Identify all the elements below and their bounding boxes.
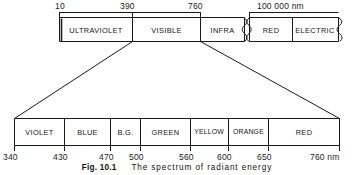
band-red-top: RED <box>251 26 291 35</box>
bottom-tick-label-430: 430 <box>53 152 68 162</box>
top-tick-label-760: 760 <box>188 1 203 11</box>
bottom-tick-label-340: 340 <box>3 152 18 162</box>
bottom-tick-label-470: 470 <box>99 152 114 162</box>
band-electric: ELECTRIC <box>293 26 337 35</box>
break-wave-electric-end <box>337 18 342 42</box>
expansion-line-right <box>201 42 340 119</box>
bottom-tick-label-650: 650 <box>257 152 272 162</box>
band-green: GREEN <box>141 128 190 137</box>
expansion-line-left <box>15 42 133 119</box>
top-tick-label-390: 390 <box>120 1 135 11</box>
bottom-tick-label-560: 560 <box>179 152 194 162</box>
figure-caption: Fig. 10.1 The spectrum of radiant energy <box>0 163 354 172</box>
band-infra: INFRA <box>202 26 243 35</box>
band-blue-green: B.G. <box>111 128 140 137</box>
bottom-tick-label-760nm: 760 nm <box>310 152 340 162</box>
caption-number: Fig. 10.1 <box>82 163 117 172</box>
band-visible: VISIBLE <box>133 26 200 35</box>
band-orange: ORANGE <box>229 128 268 135</box>
bottom-tick-label-600: 600 <box>217 152 232 162</box>
band-blue: BLUE <box>65 128 110 137</box>
figure-spectrum-of-radiant-energy: 10 390 760 100 000 nm ULTRAVIOLET VISIBL… <box>0 0 354 175</box>
band-violet: VIOLET <box>15 128 64 137</box>
band-ultraviolet: ULTRAVIOLET <box>63 26 129 35</box>
bottom-tick-label-500: 500 <box>129 152 144 162</box>
band-yellow: YELLOW <box>190 128 228 135</box>
band-red-bottom: RED <box>269 128 339 137</box>
top-tick-label-10: 10 <box>55 1 65 11</box>
caption-text: The spectrum of radiant energy <box>131 163 272 172</box>
top-tick-label-100000nm: 100 000 nm <box>257 1 304 11</box>
